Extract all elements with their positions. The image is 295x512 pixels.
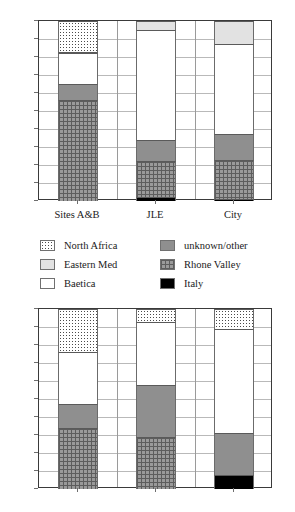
legend-swatch-unknown [160, 240, 175, 251]
top-chart-plot-area [38, 20, 272, 200]
bar-group-2 [136, 309, 176, 489]
bar-segment-baetica [58, 53, 98, 84]
x-axis-tick-mark [233, 488, 234, 492]
bar-segment-italy [214, 475, 254, 489]
legend-item-rhone[interactable]: Rhone Valley [160, 259, 241, 270]
bar-segment-eastern [214, 21, 254, 44]
legend-label: Italy [184, 278, 203, 289]
legend-swatch-italy [160, 278, 175, 289]
bar-segment-unknown [214, 433, 254, 474]
x-axis-tick-mark [155, 200, 156, 204]
bar-city [214, 21, 254, 201]
legend-label: Eastern Med [64, 259, 117, 270]
bar-segment-unknown [136, 385, 176, 437]
x-axis-tick-label: Sites A&B [54, 209, 99, 220]
y-axis-tick-mark [34, 488, 38, 489]
bar-segment-baetica [136, 30, 176, 140]
legend-item-eastern[interactable]: Eastern Med [40, 259, 117, 270]
bottom-chart-plot-area [38, 308, 272, 488]
bar-group-3 [214, 309, 254, 489]
bar-segment-rhone [136, 161, 176, 197]
chart-legend: North Africaunknown/otherEastern MedRhon… [0, 236, 295, 296]
legend-item-baetica[interactable]: Baetica [40, 278, 95, 289]
legend-swatch-baetica [40, 278, 55, 289]
legend-label: Rhone Valley [184, 259, 241, 270]
legend-item-north[interactable]: North Africa [40, 240, 117, 251]
bar-segment-italy [214, 199, 254, 201]
bar-segment-unknown [214, 134, 254, 159]
bar-segment-unknown [136, 140, 176, 162]
bar-segment-eastern [136, 21, 176, 30]
legend-item-unknown[interactable]: unknown/other [160, 240, 248, 251]
bar-segment-rhone [58, 100, 98, 201]
legend-label: unknown/other [184, 240, 248, 251]
bar-segment-eastern [58, 52, 98, 54]
bar-segment-north [136, 309, 176, 322]
legend-swatch-eastern [40, 259, 55, 270]
bar-segment-baetica [136, 322, 176, 385]
x-axis-tick-label: JLE [147, 209, 164, 220]
legend-swatch-north [40, 240, 55, 251]
bar-sites-a-b [58, 21, 98, 201]
bar-group-1 [58, 309, 98, 489]
bar-segment-rhone [136, 437, 176, 489]
x-axis-tick-label: City [224, 209, 242, 220]
top-stacked-bar-chart: 100908070605040302010% Sites A&BJLECity [0, 0, 295, 232]
bar-segment-baetica [214, 329, 254, 433]
category-separator [117, 309, 118, 487]
legend-label: North Africa [64, 240, 117, 251]
bar-segment-rhone [58, 428, 98, 489]
bar-segment-unknown [58, 84, 98, 100]
bar-segment-baetica [58, 352, 98, 404]
x-axis-tick-mark [155, 488, 156, 492]
x-axis-tick-mark [77, 488, 78, 492]
bar-segment-unknown [58, 404, 98, 427]
category-separator [195, 21, 196, 199]
category-separator [195, 309, 196, 487]
legend-item-italy[interactable]: Italy [160, 278, 203, 289]
bar-segment-rhone [214, 160, 254, 200]
x-axis-tick-mark [233, 200, 234, 204]
bottom-stacked-bar-chart: 100908070605040302010% [0, 300, 295, 512]
bar-segment-north [58, 21, 98, 52]
bar-segment-north [58, 309, 98, 352]
bar-jle [136, 21, 176, 201]
y-axis-tick-mark [34, 200, 38, 201]
legend-label: Baetica [64, 278, 95, 289]
bar-segment-north [214, 309, 254, 329]
legend-swatch-rhone [160, 259, 175, 270]
bar-segment-italy [136, 197, 176, 201]
category-separator [117, 21, 118, 199]
x-axis-tick-mark [77, 200, 78, 204]
bar-segment-baetica [214, 44, 254, 134]
figure-page: 100908070605040302010% Sites A&BJLECity … [0, 0, 295, 512]
